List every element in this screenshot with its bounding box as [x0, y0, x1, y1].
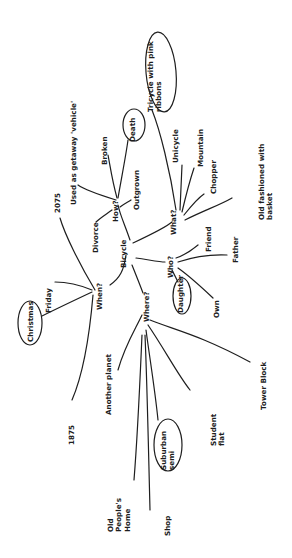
branch-what: What?: [170, 209, 178, 235]
node-father: Father: [232, 237, 240, 263]
node-tower-block: Tower Block: [260, 362, 268, 410]
node-2075: 2075: [54, 193, 62, 213]
node-mountain: Mountain: [197, 129, 205, 167]
node-old-peoples-home: Old People's Home: [107, 498, 132, 532]
branch-who: Who?: [167, 256, 175, 278]
central-topic-bicycle: Bicycle: [120, 240, 128, 269]
node-friend: Friend: [205, 226, 213, 252]
branch-where: Where?: [143, 291, 151, 322]
node-broken: Broken: [101, 136, 109, 165]
node-outgrown: Outgrown: [133, 170, 141, 210]
node-suburban-semi: Suburban semi: [160, 431, 177, 470]
node-own: Own: [213, 300, 221, 318]
node-chopper: Chopper: [210, 160, 218, 194]
node-divorce: Divorce: [92, 222, 100, 253]
node-shop: Shop: [164, 516, 172, 536]
node-old-fashioned: Old fashioned with basket: [258, 144, 275, 220]
node-unicycle: Unicycle: [172, 129, 180, 163]
node-another-planet: Another planet: [105, 354, 113, 415]
node-death: Death: [129, 118, 137, 142]
node-christmas: Christmas: [27, 301, 35, 342]
branch-when: When?: [96, 283, 104, 310]
mind-map-canvas: Bicycle How? What? Who? When? Where? Use…: [0, 0, 292, 558]
node-friday: Friday: [45, 288, 53, 313]
node-student-flat: Student flat: [210, 414, 227, 446]
node-1875: 1875: [68, 425, 76, 445]
branch-how: How?: [112, 200, 120, 222]
node-used-as-getaway: Used as getaway 'vehicle': [70, 101, 78, 205]
node-daughter: Daughter: [177, 275, 185, 313]
node-tricycle: Tricycle with pink ribbons: [147, 41, 164, 112]
